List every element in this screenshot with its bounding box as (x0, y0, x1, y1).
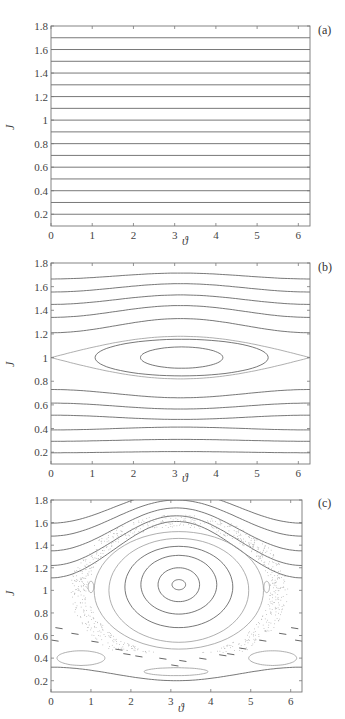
panel-a: 01234560.20.40.60.811.21.41.61.8 (34, 20, 310, 241)
x-tick-label: 0 (48, 467, 54, 479)
trajectory-curve (51, 390, 310, 398)
panel-a-xlabel: ϑ (182, 234, 189, 248)
trajectory-curve (51, 508, 302, 551)
trajectory-curve (51, 452, 310, 453)
chaotic-dash (199, 658, 206, 659)
x-tick-label: 3 (172, 229, 178, 241)
trajectory-curve (51, 319, 310, 333)
y-tick-label: 0.6 (34, 399, 48, 411)
plot-area (51, 273, 310, 453)
trajectory-curve (249, 651, 297, 666)
trajectory-curve (158, 568, 200, 602)
x-tick-label: 5 (254, 229, 260, 241)
y-tick-label: 0.4 (34, 652, 48, 664)
trajectory-curve (141, 347, 223, 368)
panel-b-ylabel: J (3, 361, 17, 367)
trajectory-curve (144, 668, 208, 676)
trajectory-curve (88, 581, 94, 592)
trajectory-curve (172, 580, 186, 590)
x-tick-label: 3 (172, 467, 178, 479)
plot-area (51, 38, 310, 214)
panel-c-xlabel: ϑ (178, 701, 185, 715)
panel-c-ylabel: J (3, 590, 17, 596)
y-tick-label: 1 (43, 584, 49, 596)
chaotic-dash (227, 654, 234, 655)
chaotic-dash (91, 641, 98, 642)
y-tick-label: 0.2 (34, 446, 48, 458)
trajectory-curve (95, 339, 268, 376)
y-tick-label: 0.4 (34, 423, 48, 435)
y-tick-label: 0.6 (34, 161, 48, 173)
y-tick-label: 1.6 (34, 281, 48, 293)
chaotic-dash (239, 648, 246, 649)
trajectory-curve (51, 439, 310, 441)
x-tick-label: 1 (89, 467, 95, 479)
chaotic-dash (55, 628, 62, 629)
trajectory-curve (51, 273, 310, 279)
x-tick-label: 6 (296, 229, 302, 241)
y-tick-label: 0.8 (34, 375, 48, 387)
y-tick-label: 1.6 (34, 517, 48, 529)
chaotic-dash (123, 654, 130, 655)
chaotic-dash (115, 649, 122, 650)
chaotic-dash (279, 633, 286, 634)
phase-portrait-figure: 01234560.20.40.60.811.21.41.61.8 0123456… (0, 0, 345, 719)
chaotic-dash (135, 656, 142, 657)
chaotic-dash (179, 660, 186, 661)
y-tick-label: 1.8 (34, 257, 48, 269)
x-tick-label: 2 (128, 695, 134, 707)
chaotic-dash (171, 665, 178, 666)
chaotic-dash (159, 658, 166, 659)
y-tick-label: 0.8 (34, 607, 48, 619)
y-tick-label: 1.8 (34, 494, 48, 506)
y-tick-label: 1.4 (34, 304, 48, 316)
chaotic-dash (291, 628, 298, 629)
chaotic-dash (219, 655, 226, 656)
trajectory-curve (57, 651, 105, 666)
y-tick-label: 1.8 (34, 20, 48, 32)
x-tick-label: 3 (168, 695, 174, 707)
x-tick-label: 4 (213, 467, 219, 479)
chaotic-dash (259, 640, 266, 641)
chaotic-dash (71, 633, 78, 634)
x-tick-label: 2 (131, 229, 137, 241)
x-tick-label: 6 (296, 467, 302, 479)
trajectory-curve (51, 522, 302, 578)
y-tick-label: 0.8 (34, 138, 48, 150)
x-tick-label: 4 (208, 695, 214, 707)
x-tick-label: 0 (48, 229, 54, 241)
trajectory-curve (51, 516, 302, 566)
axes-frame (51, 263, 310, 464)
axes-frame (51, 26, 310, 226)
panel-b-label: (b) (318, 260, 332, 274)
y-tick-label: 1.4 (34, 539, 48, 551)
y-tick-label: 0.6 (34, 630, 48, 642)
y-tick-label: 1.4 (34, 67, 48, 79)
trajectory-curve (51, 667, 302, 681)
trajectory-curve (51, 403, 310, 409)
x-tick-label: 1 (89, 229, 95, 241)
y-tick-label: 0.4 (34, 185, 48, 197)
y-tick-label: 0.2 (34, 208, 48, 220)
trajectory-curve (264, 581, 270, 592)
trajectory-curve (51, 500, 302, 536)
x-tick-label: 0 (48, 695, 54, 707)
trajectory-curve (51, 427, 310, 430)
y-tick-label: 1.6 (34, 44, 48, 56)
y-tick-label: 1 (43, 114, 49, 126)
x-tick-label: 5 (254, 467, 260, 479)
y-tick-label: 1.2 (34, 91, 48, 103)
panel-a-label: (a) (318, 23, 331, 37)
x-tick-label: 4 (213, 229, 219, 241)
trajectory-curve (51, 415, 310, 419)
panel-a-ylabel: J (3, 124, 17, 130)
x-tick-label: 1 (88, 695, 94, 707)
x-tick-label: 6 (288, 695, 294, 707)
trajectory-curve (51, 492, 302, 524)
panel-b-xlabel: ϑ (182, 471, 189, 485)
trajectory-curve (109, 538, 249, 642)
y-tick-label: 1.2 (34, 328, 48, 340)
trajectory-curve (51, 284, 310, 292)
chaotic-dash (51, 640, 58, 641)
trajectory-curve (51, 295, 310, 305)
